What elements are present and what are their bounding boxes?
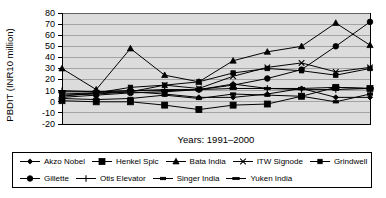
data-point-marker <box>162 94 167 96</box>
legend-row-2: GilletteOtis ElevatorSinger IndiaYuken I… <box>13 170 371 187</box>
data-point-marker <box>160 177 165 179</box>
data-point-marker <box>367 19 373 25</box>
legend-marker-circle-icon <box>19 173 41 184</box>
legend-marker-square-large-icon <box>91 156 113 167</box>
y-tick-label: 30 <box>45 63 55 73</box>
legend-marker-cross-x-icon <box>232 156 254 167</box>
y-tick-label: 40 <box>45 52 55 62</box>
data-point-marker <box>196 88 202 90</box>
legend-item-yuken-india[interactable]: Yuken India <box>225 173 292 184</box>
data-point-marker <box>27 159 32 164</box>
data-point-marker <box>367 93 372 95</box>
data-point-marker <box>333 44 339 50</box>
y-tick-label: -10 <box>42 108 55 118</box>
legend-item-bata-india[interactable]: Bata India <box>165 156 226 167</box>
legend-label: Gillette <box>44 174 69 184</box>
legend-item-itw-signode[interactable]: ITW Signode <box>232 156 303 167</box>
data-point-marker <box>196 107 202 113</box>
data-point-marker <box>318 159 322 163</box>
legend-item-otis-elevator[interactable]: Otis Elevator <box>75 173 146 184</box>
legend-marker-plus-icon <box>75 173 97 184</box>
y-tick-label: 20 <box>45 74 55 84</box>
data-point-marker <box>264 87 270 89</box>
data-point-marker <box>334 73 338 77</box>
y-tick-label: 80 <box>45 8 55 18</box>
data-point-marker <box>231 71 235 75</box>
y-tick-label: 70 <box>45 19 55 29</box>
legend-item-henkel-spic[interactable]: Henkel Spic <box>91 156 159 167</box>
y-axis-tick-labels: -20-1001020304050607080 <box>42 8 55 129</box>
data-point-marker <box>333 101 338 103</box>
data-point-marker <box>333 86 339 88</box>
legend-marker-square-small-icon <box>309 156 331 167</box>
x-axis-label: Years: 1991–2000 <box>178 134 255 145</box>
legend-marker-dash-icon <box>225 173 247 184</box>
data-point-marker <box>265 76 271 82</box>
legend-marker-diamond-icon <box>19 156 41 167</box>
data-point-marker <box>196 97 201 99</box>
data-point-marker <box>367 87 373 89</box>
data-point-marker <box>230 102 236 108</box>
data-point-marker <box>99 159 105 165</box>
data-point-marker <box>298 87 304 89</box>
line-chart: -20-1001020304050607080 PBDIT (INR10 mil… <box>0 0 386 150</box>
data-point-marker <box>265 66 269 70</box>
legend-row-1: Akzo NobelHenkel SpicBata IndiaITW Signo… <box>13 153 371 170</box>
data-point-marker <box>197 80 201 84</box>
chart-figure: -20-1001020304050607080 PBDIT (INR10 mil… <box>0 0 386 198</box>
data-point-marker <box>233 177 239 179</box>
legend-item-gillette[interactable]: Gillette <box>19 173 69 184</box>
legend-item-grindwell[interactable]: Grindwell <box>309 156 367 167</box>
legend-label: Yuken India <box>250 174 292 184</box>
chart-legend: Akzo NobelHenkel SpicBata IndiaITW Signo… <box>12 152 372 188</box>
legend-label: Singer India <box>177 174 220 184</box>
legend-label: Henkel Spic <box>116 157 159 167</box>
data-point-marker <box>162 102 168 108</box>
data-point-marker <box>83 175 89 181</box>
legend-item-singer-india[interactable]: Singer India <box>152 173 220 184</box>
data-point-marker <box>94 98 99 100</box>
legend-label: Otis Elevator <box>100 174 146 184</box>
data-point-marker <box>161 90 167 92</box>
y-tick-label: -20 <box>42 119 55 129</box>
data-point-marker <box>299 67 305 73</box>
y-tick-label: 60 <box>45 30 55 40</box>
legend-label: ITW Signode <box>257 157 303 167</box>
data-point-marker <box>127 90 133 92</box>
data-point-marker <box>231 93 236 95</box>
data-point-marker <box>27 176 33 182</box>
data-point-marker <box>128 97 133 99</box>
data-point-marker <box>368 66 372 70</box>
y-tick-label: 10 <box>45 86 55 96</box>
legend-label: Grindwell <box>334 157 367 167</box>
legend-item-akzo-nobel[interactable]: Akzo Nobel <box>19 156 85 167</box>
data-point-marker <box>93 91 99 93</box>
y-tick-label: 0 <box>50 97 55 107</box>
legend-label: Bata India <box>190 157 226 167</box>
data-point-marker <box>230 87 236 89</box>
legend-label: Akzo Nobel <box>44 157 85 167</box>
data-point-marker <box>264 101 270 107</box>
y-tick-label: 50 <box>45 41 55 51</box>
data-point-marker <box>299 95 304 97</box>
data-point-marker <box>265 94 270 96</box>
y-axis-label: PBDIT (INR10 million) <box>4 28 15 121</box>
legend-marker-triangle-icon <box>165 156 187 167</box>
legend-marker-bar-icon <box>152 173 174 184</box>
